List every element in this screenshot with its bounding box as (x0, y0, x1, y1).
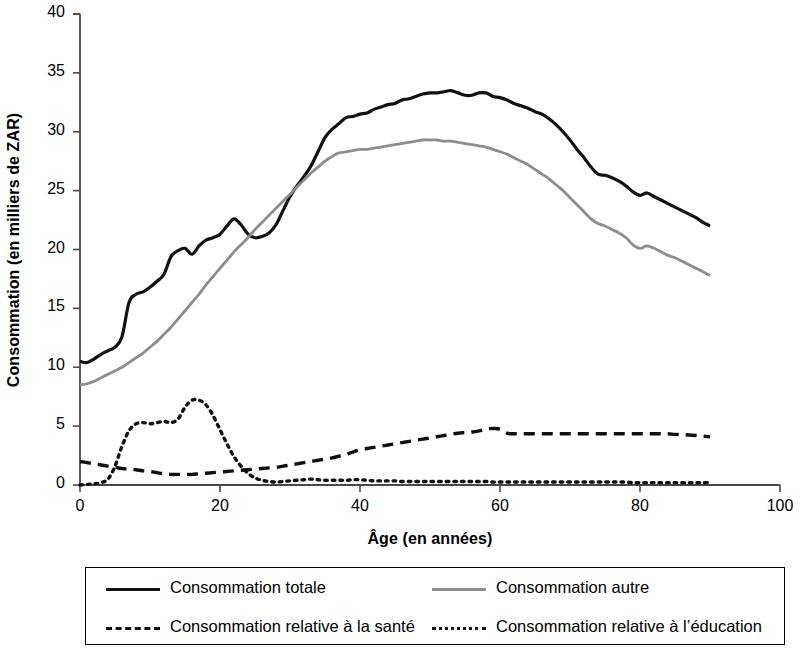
tick-marks (73, 14, 780, 492)
y-tick-label: 15 (29, 297, 65, 315)
y-tick-label: 5 (29, 415, 65, 433)
chart-figure: Consommation (en milliers de ZAR) Âge (e… (0, 0, 804, 651)
legend-item-consommation-totale[interactable]: Consommation totale (86, 568, 432, 607)
series-line-1 (80, 140, 710, 385)
y-tick-label: 0 (29, 474, 65, 492)
chart-legend: Consommation totale Consommation autre C… (85, 567, 785, 645)
y-tick-label: 20 (29, 239, 65, 257)
legend-row: Consommation totale Consommation autre (86, 568, 784, 607)
legend-swatch-dotted-icon (432, 620, 486, 634)
legend-label: Consommation relative à l’éducation (496, 617, 762, 636)
legend-swatch-solid-gray-icon (432, 581, 486, 595)
legend-label: Consommation totale (170, 578, 326, 597)
data-series-group (80, 91, 710, 485)
series-line-3 (80, 399, 710, 485)
legend-item-consommation-autre[interactable]: Consommation autre (432, 568, 772, 607)
y-tick-label: 40 (29, 3, 65, 21)
y-tick-label: 10 (29, 356, 65, 374)
legend-row: Consommation relative à la santé Consomm… (86, 607, 784, 646)
series-line-2 (80, 428, 710, 474)
legend-label: Consommation autre (496, 578, 649, 597)
x-tick-label: 100 (757, 497, 803, 515)
legend-swatch-dashed-icon (106, 620, 160, 634)
y-tick-label: 35 (29, 62, 65, 80)
y-tick-label: 25 (29, 180, 65, 198)
x-tick-label: 0 (57, 497, 103, 515)
plot-area (0, 0, 804, 560)
legend-swatch-solid-black-icon (106, 581, 160, 595)
legend-item-consommation-education[interactable]: Consommation relative à l’éducation (432, 607, 772, 646)
legend-label: Consommation relative à la santé (170, 617, 415, 636)
x-tick-label: 20 (197, 497, 243, 515)
legend-item-consommation-sante[interactable]: Consommation relative à la santé (86, 607, 432, 646)
y-tick-label: 30 (29, 121, 65, 139)
x-tick-label: 40 (337, 497, 383, 515)
x-tick-label: 60 (477, 497, 523, 515)
x-tick-label: 80 (617, 497, 663, 515)
